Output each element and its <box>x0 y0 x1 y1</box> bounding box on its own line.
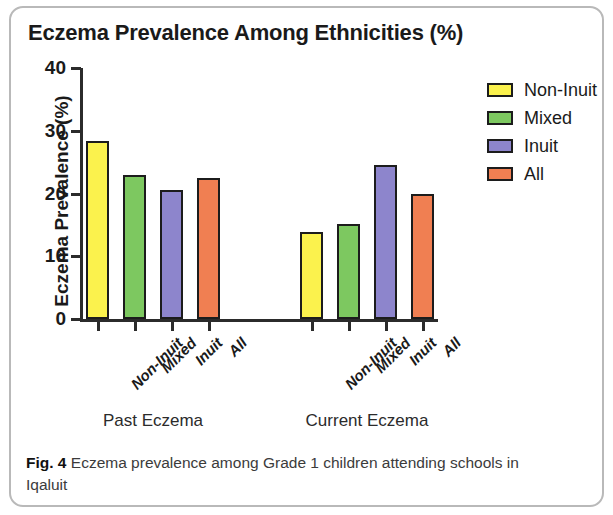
x-axis-tick <box>311 322 314 331</box>
legend-swatch-icon <box>487 111 513 125</box>
x-axis-tick <box>422 322 425 331</box>
bar <box>197 178 220 319</box>
x-axis-category-label: Inuit <box>191 334 225 368</box>
x-axis-group-label: Past Eczema <box>66 411 240 431</box>
legend-swatch-icon <box>487 83 513 97</box>
x-axis-category-label: All <box>438 334 464 360</box>
bar <box>337 224 360 319</box>
bar <box>160 190 183 319</box>
legend-item: All <box>487 160 597 188</box>
y-axis-tick-label: 20 <box>8 183 66 205</box>
legend-swatch-icon <box>487 167 513 181</box>
x-axis-group-label: Current Eczema <box>280 411 454 431</box>
x-axis-tick <box>171 322 174 331</box>
bar <box>123 175 146 319</box>
legend-item: Non-Inuit <box>487 76 597 104</box>
legend-label: Inuit <box>524 136 558 157</box>
y-axis-tick-label: 10 <box>8 245 66 267</box>
y-axis-tick <box>71 130 81 133</box>
x-axis-tick <box>348 322 351 331</box>
y-axis-tick <box>71 318 81 321</box>
figure-container: Eczema Prevalence Among Ethnicities (%) … <box>0 0 613 515</box>
y-axis-tick-label: 0 <box>8 308 66 330</box>
y-axis-tick-label: 30 <box>8 120 66 142</box>
x-axis-tick <box>134 322 137 331</box>
bar <box>411 194 434 319</box>
x-axis-tick <box>208 322 211 331</box>
legend-swatch-icon <box>487 139 513 153</box>
y-axis-tick <box>71 255 81 258</box>
figure-caption: Fig. 4 Eczema prevalence among Grade 1 c… <box>26 452 546 497</box>
legend-item: Mixed <box>487 104 597 132</box>
caption-label: Fig. 4 <box>26 454 66 471</box>
bar <box>374 165 397 319</box>
x-axis-category-label: All <box>224 334 250 360</box>
legend-label: Mixed <box>524 108 572 129</box>
bar <box>86 141 109 319</box>
legend-label: Non-Inuit <box>524 80 597 101</box>
y-axis-tick <box>71 193 81 196</box>
x-axis-tick <box>97 322 100 331</box>
y-axis-tick <box>71 67 81 70</box>
y-axis-tick-label: 40 <box>8 57 66 79</box>
legend-item: Inuit <box>487 132 597 160</box>
caption-text: Eczema prevalence among Grade 1 children… <box>26 454 519 493</box>
chart-legend: Non-InuitMixedInuitAll <box>487 76 597 188</box>
legend-label: All <box>524 164 544 185</box>
bar <box>300 232 323 319</box>
x-axis-tick <box>385 322 388 331</box>
x-axis-category-label: Inuit <box>405 334 439 368</box>
